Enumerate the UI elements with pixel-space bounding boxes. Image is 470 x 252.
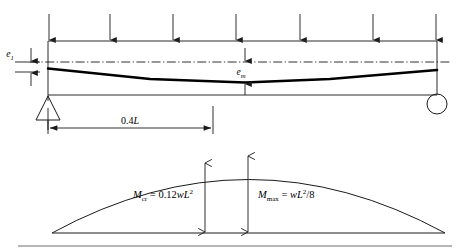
mid-eccentricity-label: em [237, 67, 246, 79]
end-eccentricity-label: e1 [6, 49, 14, 61]
maximum-moment-label: Mmax = wL2/8 [257, 188, 315, 203]
distributed-load-arrows [49, 14, 436, 40]
engineering-diagram-canvas: e1 em 0.4L Mcr = 0.12wL2 Mmax = wL [0, 0, 470, 252]
mid-eccentricity-dimension: em [237, 48, 246, 95]
bending-moment-diagram: Mcr = 0.12wL2 Mmax = wL2/8 [52, 156, 445, 233]
cracking-moment-dimension: Mcr = 0.12wL2 [132, 163, 205, 232]
roller-support-circle [427, 94, 447, 114]
span-fraction-dimension: 0.4L [48, 106, 213, 134]
cracking-moment-label: Mcr = 0.12wL2 [132, 188, 194, 203]
maximum-moment-dimension: Mmax = wL2/8 [248, 156, 315, 232]
moment-parabola [52, 180, 445, 234]
end-eccentricity-dimension: e1 [6, 48, 40, 86]
span-fraction-label: 0.4L [121, 115, 140, 126]
figure-root: e1 em 0.4L Mcr = 0.12wL2 Mmax = wL [0, 0, 470, 252]
